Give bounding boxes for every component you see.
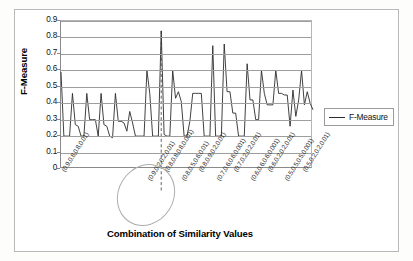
- y-tick-label: 0: [35, 164, 57, 172]
- gridline: [61, 87, 311, 88]
- gridline: [61, 54, 311, 55]
- chart-legend: F-Measure: [324, 108, 394, 126]
- legend-label-f-measure: F-Measure: [349, 112, 388, 122]
- gridline: [61, 153, 311, 154]
- y-tick-label: 0.1: [35, 148, 57, 156]
- chart-figure: F-Measure 0.90.80.70.60.50.40.30.20.10 (…: [0, 0, 413, 261]
- y-tick-mark: [57, 135, 60, 136]
- y-tick-label: 0.3: [35, 115, 57, 123]
- y-tick-label: 0.7: [35, 49, 57, 57]
- y-tick-mark: [57, 20, 60, 21]
- x-axis-tick-labels: (0.9,0.8,0.8,0.01)(0.9,0.2,0.2,0.01)(0.8…: [60, 169, 312, 227]
- y-tick-mark: [57, 119, 60, 120]
- gridline: [61, 21, 311, 22]
- gridline: [61, 103, 311, 104]
- y-tick-mark: [57, 53, 60, 54]
- y-tick-label: 0.4: [35, 98, 57, 106]
- legend-line-swatch: [329, 117, 345, 118]
- y-tick-label: 0.9: [35, 16, 57, 24]
- y-tick-mark: [57, 152, 60, 153]
- y-tick-mark: [57, 168, 60, 169]
- y-tick-label: 0.8: [35, 32, 57, 40]
- y-tick-mark: [57, 69, 60, 70]
- y-axis-tick-labels: 0.90.80.70.60.50.40.30.20.10: [33, 20, 57, 168]
- gridline: [61, 120, 311, 121]
- x-axis-title: Combination of Similarity Values: [40, 228, 320, 239]
- y-tick-mark: [57, 86, 60, 87]
- gridline: [61, 70, 311, 71]
- series-polyline: [61, 31, 313, 138]
- y-axis-title: F-Measure: [18, 27, 29, 117]
- y-tick-label: 0.5: [35, 82, 57, 90]
- y-tick-label: 0.6: [35, 65, 57, 73]
- y-tick-mark: [57, 36, 60, 37]
- y-tick-label: 0.2: [35, 131, 57, 139]
- gridline: [61, 37, 311, 38]
- y-tick-mark: [57, 102, 60, 103]
